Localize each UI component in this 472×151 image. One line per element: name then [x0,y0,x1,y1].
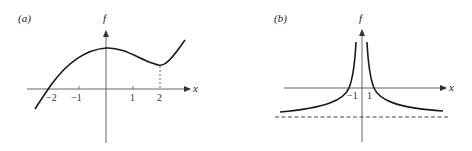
curve-a [35,40,185,109]
panel-a: (a) f x −2 −1 1 2 [0,0,236,151]
curve-b-right [367,42,443,111]
x-axis-label: x [448,81,454,93]
tick-label: 2 [157,92,162,103]
chart-a: (a) f x −2 −1 1 2 [0,0,236,151]
x-axis-label: x [192,82,198,94]
chart-b: (b) f x −1 1 [236,0,472,151]
tick-label: −1 [71,92,82,103]
curve-b-left [280,42,356,112]
tick-label: −2 [46,92,57,103]
tick-label: 1 [130,92,135,103]
panel-b: (b) f x −1 1 [236,0,472,151]
tick-label: −1 [347,90,358,101]
panel-label: (b) [274,12,287,25]
y-axis-label: f [359,12,364,24]
tick-label: 1 [367,90,372,101]
panel-label: (a) [18,12,31,25]
y-axis-label: f [103,12,108,24]
